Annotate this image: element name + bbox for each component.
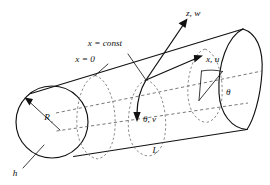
label-x-const: x = const [87,38,123,48]
x-axis-arrowhead [194,55,203,63]
x-zero-ellipse-back [95,76,115,159]
z-axis-arrowhead [179,19,188,29]
figure-canvas: z, w x, u θ, v θ x = 0 x = const R h L [0,0,270,185]
radius-annotation [25,98,61,131]
cylinder-bottom-edge [74,130,248,157]
centerline-upper [56,71,262,113]
label-axis-x: x, u [205,54,220,64]
label-x-zero: x = 0 [74,54,95,64]
label-angle-theta: θ [226,87,231,97]
label-axis-z: z, w [185,8,201,18]
label-thickness: h [13,168,18,178]
label-radius: R [43,112,50,122]
reference-circle-x-zero [77,76,115,159]
label-axis-theta: θ, v [143,114,157,124]
x-const-leader [128,54,146,80]
right-end-cap-outer [243,29,262,130]
x-zero-leader [95,64,108,76]
label-length: L [151,145,157,155]
theta-radius-measured [199,71,202,101]
theta-arc [202,70,223,71]
cylindrical-shell-figure: z, w x, u θ, v θ x = 0 x = const R h L [0,0,270,185]
theta-axis-arrowhead [133,112,140,122]
